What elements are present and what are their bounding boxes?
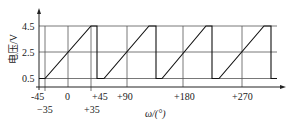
x-tick-p90: +90 [117, 91, 133, 102]
x-tick-p35: +35 [84, 104, 100, 115]
x-tick-p45: +45 [92, 91, 108, 102]
x-tick-p270: +270 [232, 91, 253, 102]
x-tick-0: 0 [65, 91, 70, 102]
x-tick-m35: −35 [37, 104, 53, 115]
voltage-angle-chart: 4.5 2.5 0.5 电压/V -45 0 +45 +90 +180 +270… [0, 0, 296, 124]
x-axis-arrow-icon [280, 85, 286, 89]
y-tick-4-5: 4.5 [22, 21, 35, 32]
y-tick-0-5: 0.5 [22, 73, 35, 84]
x-tick-m45: -45 [31, 91, 44, 102]
x-axis-title: ω/(°) [145, 108, 166, 120]
y-tick-2-5: 2.5 [22, 47, 35, 58]
x-tick-p180: +180 [174, 91, 195, 102]
y-axis-title: 电压/V [7, 33, 19, 64]
y-axis-arrow-icon [37, 8, 41, 14]
axes [36, 8, 286, 90]
